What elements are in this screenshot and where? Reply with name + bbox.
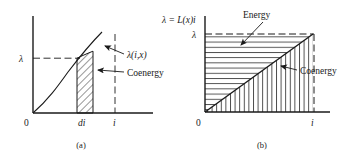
equation-label-b: λ = L(x)i [161, 15, 196, 26]
di-tick-label-a: di [78, 118, 86, 128]
coenergy-leader-a [98, 70, 124, 72]
y-axis-label-a: λ [18, 54, 23, 64]
energy-label-b: Energy [243, 10, 271, 20]
origin-label-b: 0 [196, 118, 201, 128]
i-tick-label-a: i [113, 118, 116, 128]
coenergy-label-b: Coenergy [300, 66, 337, 76]
panel-caption-b: (b) [257, 140, 267, 150]
panel-a: λ 0 di i λ(i,x) Coenergy (a) [18, 16, 164, 150]
panel-caption-a: (a) [76, 140, 86, 150]
di-strip-region [77, 51, 93, 113]
curve-leader-a [105, 46, 124, 54]
figure-svg: λ 0 di i λ(i,x) Coenergy (a) [0, 0, 359, 155]
origin-label-a: 0 [24, 118, 29, 128]
coenergy-label-a: Coenergy [127, 68, 164, 78]
figure-container: λ 0 di i λ(i,x) Coenergy (a) [0, 0, 359, 155]
i-tick-label-b: i [311, 118, 314, 128]
y-axis-label-b: λ [191, 30, 196, 40]
panel-b: λ = L(x)i λ 0 i Energy Coenergy (b) [161, 10, 337, 150]
curve-label-a: λ(i,x) [126, 50, 147, 61]
